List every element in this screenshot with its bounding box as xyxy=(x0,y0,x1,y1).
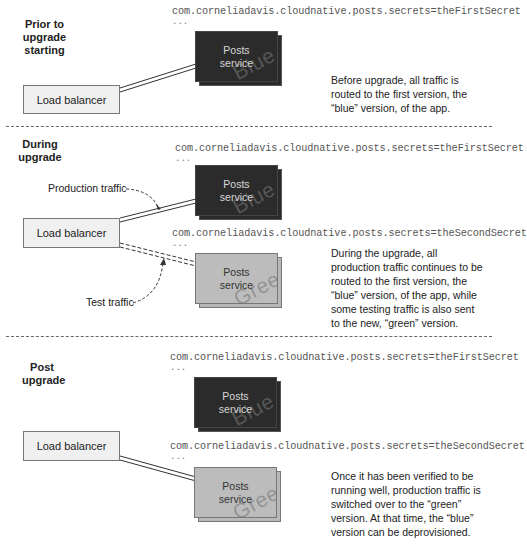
posts-service-blue: Postsservice Blue xyxy=(195,165,282,220)
load-balancer: Load balancer xyxy=(23,85,120,114)
production-traffic-route xyxy=(120,199,196,222)
ellipsis: ... xyxy=(175,154,191,164)
description-during: During the upgrade, all production traff… xyxy=(331,246,483,330)
description-line: During the upgrade, all xyxy=(331,246,483,260)
description-line: some testing traffic is also sent xyxy=(331,302,483,316)
description-line: to the new, “green” version. xyxy=(331,316,483,330)
description-line: version can be deprovisioned. xyxy=(331,525,481,539)
production-arrow xyxy=(126,189,158,207)
description-line: Once it has been verified to be xyxy=(331,469,481,483)
phase-label-line: upgrade xyxy=(22,31,67,44)
property-first-secret: com.corneliadavis.cloudnative.posts.secr… xyxy=(175,143,524,154)
phase-label-line: upgrade xyxy=(16,151,64,164)
description-line: version. At that time, the “blue” xyxy=(331,511,481,525)
phase-label-line: Post xyxy=(22,361,62,374)
load-balancer: Load balancer xyxy=(23,431,120,461)
phase-label-prior: Prior to upgrade starting xyxy=(22,18,67,57)
ellipsis: ... xyxy=(172,17,188,27)
phase-label-line: starting xyxy=(22,44,67,57)
property-second-secret: com.corneliadavis.cloudnative.posts.secr… xyxy=(170,441,525,452)
phase-label-line: During xyxy=(16,138,64,151)
posts-service-green: Postsservice Green xyxy=(194,467,281,522)
load-balancer: Load balancer xyxy=(23,218,120,248)
property-first-secret: com.corneliadavis.cloudnative.posts.secr… xyxy=(170,352,519,363)
property-second-secret: com.corneliadavis.cloudnative.posts.secr… xyxy=(172,228,527,239)
phase-label-line: Prior to xyxy=(22,18,67,31)
posts-service-green: Postsservice Green xyxy=(195,253,282,308)
posts-service-blue: Postsservice Blue xyxy=(194,377,281,432)
production-traffic-label: Production traffic xyxy=(48,182,127,194)
ellipsis: ... xyxy=(172,239,188,249)
description-line: running well, production traffic is xyxy=(331,483,481,497)
phase-label-during: During upgrade xyxy=(16,138,64,164)
description-line: “blue” version, of the app, while xyxy=(331,288,483,302)
description-post: Once it has been verified to be running … xyxy=(331,469,481,539)
description-line: production traffic continues to be xyxy=(331,260,483,274)
description-line: routed to the first version, the xyxy=(331,87,467,101)
test-arrow xyxy=(133,262,163,303)
ellipsis: ... xyxy=(170,452,186,462)
property-first-secret: com.corneliadavis.cloudnative.posts.secr… xyxy=(172,6,521,17)
ellipsis: ... xyxy=(170,363,186,373)
section-divider xyxy=(6,336,492,337)
section-divider xyxy=(6,126,492,127)
description-line: routed to the first version, the xyxy=(331,274,483,288)
posts-service-blue: Postsservice Blue xyxy=(195,31,282,86)
test-traffic-label: Test traffic xyxy=(86,296,134,308)
phase-label-post: Post upgrade xyxy=(22,361,62,387)
description-line: Before upgrade, all traffic is xyxy=(331,73,467,87)
description-line: switched over to the “green” xyxy=(331,497,481,511)
phase-label-line: upgrade xyxy=(22,374,62,387)
description-prior: Before upgrade, all traffic is routed to… xyxy=(331,73,467,115)
description-line: “blue” version, of the app. xyxy=(331,101,467,115)
traffic-route-prior xyxy=(120,64,196,92)
